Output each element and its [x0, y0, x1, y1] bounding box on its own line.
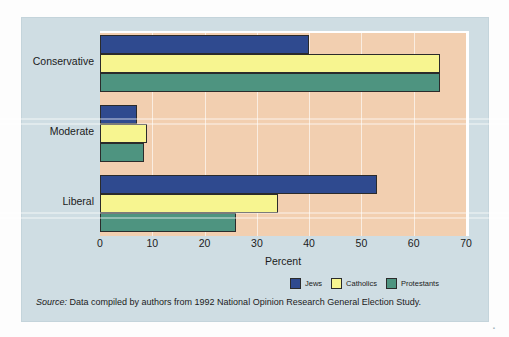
legend-item-jews: Jews — [290, 278, 322, 289]
chart-legend: Jews Catholics Protestants — [290, 278, 439, 289]
category-label-moderate: Moderate — [2, 125, 94, 137]
x-tick-0: 0 — [97, 237, 103, 249]
source-note: Source: Data compiled by authors from 19… — [36, 297, 421, 307]
legend-label-catholics: Catholics — [346, 279, 377, 288]
legend-swatch-icon — [386, 278, 397, 289]
legend-swatch-icon — [331, 278, 342, 289]
y-axis-labels: Conservative Moderate Liberal — [0, 31, 94, 234]
bar-conservative-protestants — [100, 73, 440, 92]
bar-conservative-jews — [100, 35, 309, 54]
bar-liberal-protestants — [100, 213, 236, 232]
legend-label-protestants: Protestants — [401, 279, 439, 288]
page-mark: ▪ — [493, 325, 495, 331]
category-label-conservative: Conservative — [2, 55, 94, 67]
legend-swatch-icon — [290, 278, 301, 289]
source-prefix: Source: — [36, 297, 67, 307]
bar-liberal-jews — [100, 175, 377, 194]
source-text: Data compiled by authors from 1992 Natio… — [67, 297, 421, 307]
category-label-liberal: Liberal — [2, 195, 94, 207]
x-tick-30: 30 — [251, 237, 263, 249]
bar-moderate-catholics — [100, 124, 147, 143]
legend-item-catholics: Catholics — [331, 278, 377, 289]
bar-conservative-catholics — [100, 54, 440, 73]
x-axis-tick-labels: 0 10 20 30 40 50 60 70 — [0, 237, 509, 253]
x-tick-70: 70 — [460, 237, 472, 249]
x-tick-60: 60 — [408, 237, 420, 249]
legend-item-protestants: Protestants — [386, 278, 439, 289]
legend-label-jews: Jews — [305, 279, 322, 288]
bar-moderate-protestants — [100, 143, 144, 162]
figure-root: Conservative Moderate Liberal 0 10 20 30… — [0, 0, 509, 337]
x-tick-10: 10 — [146, 237, 158, 249]
x-tick-20: 20 — [199, 237, 211, 249]
bar-liberal-catholics — [100, 194, 278, 213]
x-tick-40: 40 — [303, 237, 315, 249]
plot-area — [100, 31, 469, 236]
x-axis-title: Percent — [100, 255, 466, 267]
bar-moderate-jews — [100, 105, 137, 124]
x-tick-50: 50 — [356, 237, 368, 249]
